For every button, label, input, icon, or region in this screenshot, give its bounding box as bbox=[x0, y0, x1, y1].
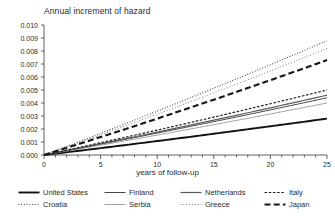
x-axis-tick-label: 25 bbox=[317, 161, 335, 168]
y-axis-tick-label: 0.010 bbox=[4, 22, 38, 29]
x-axis-tick-label: 0 bbox=[34, 161, 54, 168]
x-axis-tick-label: 5 bbox=[91, 161, 111, 168]
legend-swatch-icon bbox=[18, 188, 40, 197]
legend-swatch-icon bbox=[104, 200, 126, 209]
legend-swatch-icon bbox=[264, 188, 286, 197]
series-line-greece bbox=[44, 48, 327, 155]
series-lines bbox=[44, 41, 327, 155]
legend-swatch-icon bbox=[104, 188, 126, 197]
y-axis-tick-label: 0.000 bbox=[4, 152, 38, 159]
axes bbox=[41, 25, 327, 159]
legend-item-serbia[interactable]: Serbia bbox=[104, 200, 180, 209]
legend-label: Croatia bbox=[43, 200, 67, 209]
y-axis-tick-label: 0.006 bbox=[4, 74, 38, 81]
y-axis-tick-label: 0.005 bbox=[4, 87, 38, 94]
series-line-japan bbox=[44, 60, 327, 155]
legend-item-netherlands[interactable]: Netherlands bbox=[180, 188, 264, 197]
legend-label: Greece bbox=[205, 200, 230, 209]
legend-label: Netherlands bbox=[205, 188, 245, 197]
x-axis-title: years of follow-up bbox=[0, 168, 335, 177]
legend-label: Finland bbox=[129, 188, 154, 197]
y-axis-tick-label: 0.009 bbox=[4, 35, 38, 42]
y-axis-tick-label: 0.001 bbox=[4, 139, 38, 146]
legend-item-finland[interactable]: Finland bbox=[104, 188, 180, 197]
legend-label: Italy bbox=[289, 188, 303, 197]
legend-swatch-icon bbox=[180, 188, 202, 197]
y-axis-tick-label: 0.008 bbox=[4, 48, 38, 55]
legend-swatch-icon bbox=[264, 200, 286, 209]
chart-legend: United StatesFinlandNetherlandsItalyCroa… bbox=[18, 186, 330, 210]
x-axis-tick-label: 15 bbox=[204, 161, 224, 168]
legend-label: Serbia bbox=[129, 200, 151, 209]
chart-figure: Annual increment of hazard 0.0000.0010.0… bbox=[0, 0, 335, 218]
y-axis-tick-label: 0.002 bbox=[4, 126, 38, 133]
legend-swatch-icon bbox=[180, 200, 202, 209]
legend-label: United States bbox=[43, 188, 88, 197]
legend-item-croatia[interactable]: Croatia bbox=[18, 200, 104, 209]
legend-item-united-states[interactable]: United States bbox=[18, 188, 104, 197]
legend-item-greece[interactable]: Greece bbox=[180, 200, 264, 209]
legend-item-italy[interactable]: Italy bbox=[264, 188, 326, 197]
y-axis-tick-label: 0.004 bbox=[4, 100, 38, 107]
legend-swatch-icon bbox=[18, 200, 40, 209]
legend-item-japan[interactable]: Japan bbox=[264, 200, 326, 209]
y-axis-tick-label: 0.003 bbox=[4, 113, 38, 120]
y-axis-tick-label: 0.007 bbox=[4, 61, 38, 68]
x-axis-tick-label: 20 bbox=[260, 161, 280, 168]
x-axis-tick-label: 10 bbox=[147, 161, 167, 168]
legend-label: Japan bbox=[289, 200, 309, 209]
